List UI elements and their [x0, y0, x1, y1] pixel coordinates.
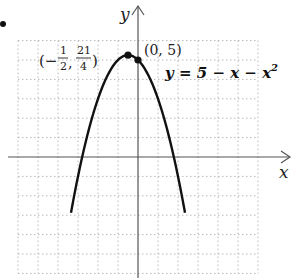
exercise-bullet: [0, 21, 6, 27]
x-axis-label: x: [279, 162, 289, 182]
vertex-frac2-den: 4: [80, 60, 87, 73]
graph: y x (− 1 2 , 21 4 ) (0, 5) y = 5 − x − x…: [0, 0, 295, 280]
vertex-label-close: ): [92, 52, 98, 70]
y-intercept-point: [134, 56, 141, 63]
equation-label: y = 5 − x − x2: [164, 62, 278, 82]
vertex-frac2-num: 21: [77, 44, 91, 57]
vertex-frac1-num: 1: [60, 44, 67, 57]
vertex-point: [124, 52, 131, 59]
vertex-frac1-den: 2: [60, 60, 67, 73]
vertex-label-open: (−: [39, 52, 57, 70]
intercept-label: (0, 5): [144, 42, 182, 58]
equation-exponent: 2: [270, 62, 278, 73]
equation-main: y = 5 − x − x: [164, 64, 272, 82]
y-axis-label: y: [119, 4, 130, 24]
vertex-label: (− 1 2 , 21 4 ): [39, 44, 98, 73]
vertex-label-comma: ,: [68, 55, 72, 71]
